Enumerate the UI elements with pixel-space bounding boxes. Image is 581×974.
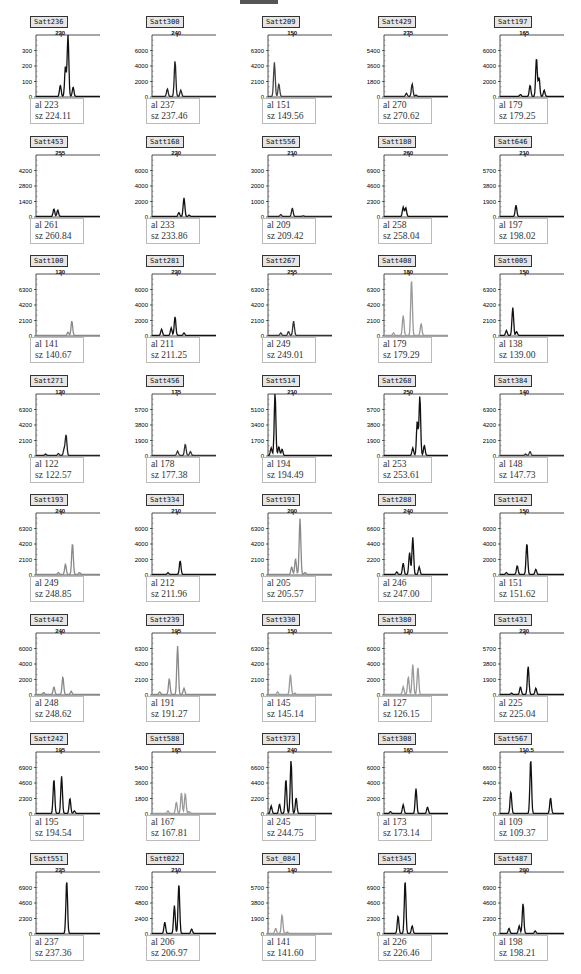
signal-trace [36, 677, 100, 694]
chart-panel: Satt4532550140028004200al 261sz 260.84 [0, 130, 116, 250]
size-value: sz 249.01 [267, 350, 311, 361]
allele-value: al 237 [35, 937, 79, 948]
y-tick-label: 1000 [251, 198, 265, 204]
y-tick-label: 3800 [251, 900, 265, 906]
y-tick-label: 2000 [367, 676, 381, 682]
y-tick-label: 2100 [19, 557, 33, 563]
chart-panel: Satt3732400220044006600al 245sz 244.75 [232, 727, 348, 847]
allele-call-box: al 245sz 244.75 [262, 815, 316, 841]
allele-value: al 223 [35, 100, 79, 111]
chart-panel: Satt2682500190038005700al 253sz 253.61 [348, 369, 464, 489]
size-value: sz 226.46 [383, 948, 427, 959]
y-tick-label: 2100 [19, 318, 33, 324]
y-tick-label: 1900 [251, 915, 265, 921]
size-value: sz 198.02 [499, 231, 543, 242]
signal-trace [36, 321, 100, 335]
allele-call-box: al 151sz 151.62 [494, 576, 548, 602]
y-tick-label: 2400 [135, 915, 149, 921]
y-tick-label: 6300 [251, 48, 265, 54]
signal-trace [384, 396, 448, 455]
size-value: sz 141.60 [267, 948, 311, 959]
y-tick-label: 4400 [367, 541, 381, 547]
allele-value: al 191 [151, 698, 195, 709]
y-tick-label: 5700 [251, 884, 265, 890]
y-tick-label: 3600 [367, 63, 381, 69]
signal-trace [500, 544, 564, 574]
signal-trace [268, 519, 332, 575]
y-tick-label: 200 [22, 63, 33, 69]
y-tick-label: 6300 [483, 406, 497, 412]
signal-trace [36, 544, 100, 574]
y-tick-label: 3800 [483, 661, 497, 667]
y-tick-label: 1900 [483, 198, 497, 204]
allele-value: al 151 [499, 578, 543, 589]
signal-trace [384, 207, 448, 216]
y-tick-label: 6300 [135, 645, 149, 651]
allele-call-box: al 237sz 237.36 [30, 935, 84, 961]
y-tick-label: 2000 [19, 676, 33, 682]
peak-plot: 0210042006300 [348, 249, 464, 344]
allele-call-box: al 148sz 147.73 [494, 457, 548, 483]
size-value: sz 167.81 [151, 828, 195, 839]
allele-value: al 122 [35, 459, 79, 470]
y-tick-label: 6000 [483, 48, 497, 54]
allele-call-box: al 248sz 248.62 [30, 696, 84, 722]
allele-value: al 179 [499, 100, 543, 111]
allele-value: al 197 [499, 220, 543, 231]
signal-trace [36, 434, 100, 455]
y-tick-label: 5400 [135, 765, 149, 771]
y-tick-label: 5700 [367, 406, 381, 412]
size-value: sz 139.00 [499, 350, 543, 361]
signal-trace [500, 666, 564, 694]
allele-value: al 233 [151, 220, 195, 231]
allele-call-box: al 212sz 211.96 [146, 576, 200, 602]
y-tick-label: 4200 [19, 422, 33, 428]
allele-value: al 245 [267, 817, 311, 828]
chart-panel: Satt5512250230046006900al 237sz 237.36 [0, 847, 116, 967]
chart-panel: Satt3452250230046006900al 226sz 226.46 [348, 847, 464, 967]
y-tick-label: 6300 [483, 287, 497, 293]
signal-trace [152, 61, 216, 96]
allele-call-box: al 206sz 206.97 [146, 935, 200, 961]
allele-call-box: al 141sz 140.67 [30, 337, 84, 363]
chart-panel: Satt3002400200040006000al 237sz 237.46 [116, 10, 232, 130]
signal-trace [268, 321, 332, 335]
y-tick-label: 6300 [251, 645, 265, 651]
y-tick-label: 5700 [483, 167, 497, 173]
chart-panel: Satt2882400220044006600al 246sz 247.00 [348, 488, 464, 608]
signal-trace [36, 35, 100, 96]
chart-panel: Satt5562100100020003000al 209sz 209.42 [232, 130, 348, 250]
size-value: sz 149.56 [267, 111, 311, 122]
size-value: sz 211.25 [151, 350, 195, 361]
signal-trace [384, 537, 448, 574]
allele-value: al 145 [267, 698, 311, 709]
allele-call-box: al 191sz 191.27 [146, 696, 200, 722]
peak-plot: 0190038005700 [116, 369, 232, 464]
peak-plot: 0210042006300 [232, 10, 348, 105]
y-tick-label: 4200 [251, 541, 265, 547]
size-value: sz 233.86 [151, 231, 195, 242]
y-tick-label: 4200 [251, 302, 265, 308]
chart-panel: Satt4081800210042006300al 179sz 179.29 [348, 249, 464, 369]
allele-call-box: al 138sz 139.00 [494, 337, 548, 363]
allele-value: al 249 [35, 578, 79, 589]
allele-value: al 253 [383, 459, 427, 470]
allele-value: al 249 [267, 339, 311, 350]
allele-call-box: al 167sz 167.81 [146, 815, 200, 841]
allele-value: al 173 [383, 817, 427, 828]
y-tick-label: 6000 [135, 526, 149, 532]
y-tick-label: 2000 [483, 79, 497, 85]
allele-value: al 138 [499, 339, 543, 350]
y-tick-label: 1900 [483, 676, 497, 682]
peak-plot: 0100200300 [0, 10, 116, 105]
size-value: sz 191.27 [151, 709, 195, 720]
y-tick-label: 2000 [135, 198, 149, 204]
signal-trace [500, 451, 564, 455]
y-tick-label: 2200 [483, 796, 497, 802]
allele-value: al 179 [383, 339, 427, 350]
y-tick-label: 6000 [483, 526, 497, 532]
y-tick-label: 2100 [483, 437, 497, 443]
allele-call-box: al 141sz 141.60 [262, 935, 316, 961]
y-tick-label: 4000 [135, 183, 149, 189]
y-tick-label: 4200 [483, 302, 497, 308]
